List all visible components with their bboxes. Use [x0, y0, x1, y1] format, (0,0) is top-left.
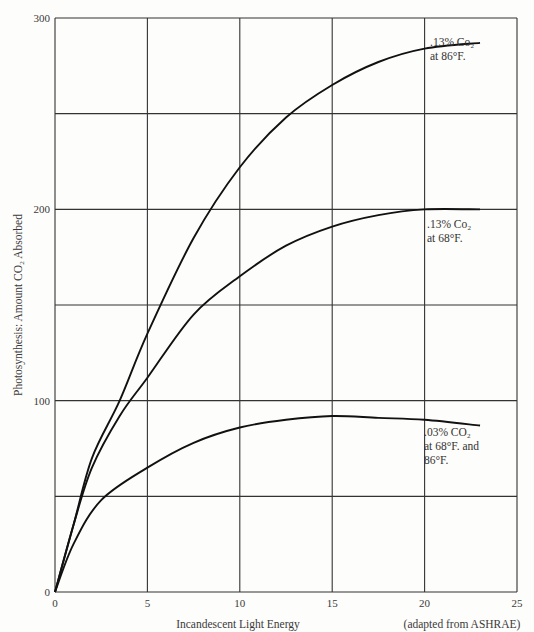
- y-tick-label: 200: [34, 203, 51, 215]
- data-curves: [55, 43, 480, 592]
- x-tick-label: 10: [234, 597, 246, 609]
- photosynthesis-chart: 0100200300 0510152025 .13% Co₂at 86°F..1…: [0, 0, 534, 632]
- x-tick-label: 15: [327, 597, 339, 609]
- curve-annotations: .13% Co₂at 86°F..13% Co₂at 68°F..03% CO₂…: [424, 36, 479, 466]
- y-tick-label: 0: [45, 586, 51, 598]
- series-label-1: .13% Co₂at 68°F.: [427, 218, 471, 244]
- x-tick-label: 25: [512, 597, 524, 609]
- curve-series-2: [55, 416, 480, 592]
- y-tick-label: 300: [34, 12, 51, 24]
- source-note: (adapted from ASHRAE): [404, 618, 521, 631]
- y-axis-ticks: 0100200300: [34, 12, 51, 598]
- x-tick-label: 0: [52, 597, 58, 609]
- y-tick-label: 100: [34, 395, 51, 407]
- series-label-0: .13% Co₂at 86°F.: [430, 36, 474, 62]
- x-tick-label: 5: [145, 597, 151, 609]
- curve-series-0: [55, 43, 480, 592]
- x-tick-label: 20: [419, 597, 431, 609]
- series-label-2: .03% CO₂at 68°F. and86°F.: [424, 426, 479, 466]
- x-axis-label: Incandescent Light Energy: [176, 618, 300, 631]
- grid-lines: [55, 18, 517, 592]
- x-axis-ticks: 0510152025: [52, 597, 523, 609]
- y-axis-label: Photosynthesis: Amount CO₂ Absorbed: [12, 214, 25, 396]
